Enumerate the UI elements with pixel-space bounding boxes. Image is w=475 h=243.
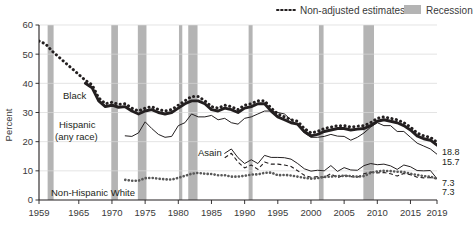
x-tick-label: 1990: [234, 207, 255, 218]
series-line-black-non-adjusted-estimates: [39, 41, 437, 142]
x-tick-label: 1980: [168, 207, 189, 218]
x-tick-label: 1985: [201, 207, 222, 218]
legend-label-recession: Recession: [426, 5, 473, 16]
x-tick-label: 2015: [400, 207, 421, 218]
x-tick-label: 1995: [267, 207, 288, 218]
series-label-asian: Asain: [198, 147, 222, 158]
legend-item-non-adjusted: Non-adjusted estimates: [277, 5, 405, 16]
poverty-rate-line-chart: Non-adjusted estimates Recession 0102030…: [0, 0, 475, 243]
series-line-non-hispanic-white: [125, 171, 437, 181]
y-tick-label: 60: [22, 19, 33, 30]
y-tick-label: 10: [22, 165, 33, 176]
legend-item-recession: Recession: [404, 5, 473, 16]
y-tick-label: 50: [22, 49, 33, 60]
y-axis-ticks: 0102030405060: [22, 19, 39, 205]
x-tick-label: 2010: [367, 207, 388, 218]
x-tick-label: 1959: [28, 207, 49, 218]
x-tick-label: 1970: [101, 207, 122, 218]
chart-legend: Non-adjusted estimates Recession: [277, 5, 473, 16]
data-series-group: [39, 41, 437, 181]
chart-container: Non-adjusted estimates Recession 0102030…: [0, 0, 475, 243]
x-tick-label: 2019: [426, 207, 447, 218]
series-label-non-hispanic-white: Non-Hispanic White: [51, 187, 135, 198]
end-label-hispanic: 15.7: [442, 157, 460, 167]
y-tick-label: 40: [22, 78, 33, 89]
x-tick-label: 1965: [68, 207, 89, 218]
series-label-hispanic-line1: Hispanic: [59, 119, 96, 130]
series-label-black: Black: [63, 90, 86, 101]
x-tick-label: 2000: [300, 207, 321, 218]
x-axis-ticks: 1959196519701975198019851990199520002005…: [28, 200, 447, 218]
legend-swatch-recession-band: [404, 5, 421, 14]
y-tick-label: 20: [22, 136, 33, 147]
end-label-non-hispanic-white: 7.3: [442, 187, 455, 197]
y-axis-title: Percent: [3, 108, 14, 141]
end-label-black: 18.8: [442, 147, 460, 157]
x-tick-label: 2005: [334, 207, 355, 218]
legend-label-non-adjusted: Non-adjusted estimates: [300, 5, 405, 16]
y-tick-label: 30: [22, 107, 33, 118]
series-label-hispanic-line2: (any race): [55, 131, 98, 142]
x-tick-label: 1975: [135, 207, 156, 218]
y-tick-label: 0: [28, 194, 33, 205]
